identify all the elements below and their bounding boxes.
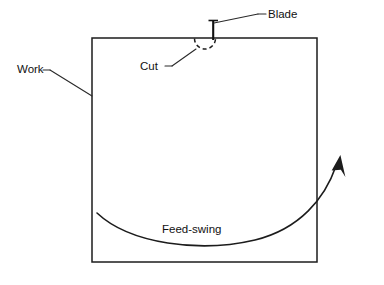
work-label: Work (17, 63, 44, 75)
feed-swing-label: Feed-swing (162, 223, 221, 235)
cutting-operation-diagram: Blade Cut Work Feed-swing (0, 0, 384, 285)
cut-leader-line (172, 49, 196, 66)
cut-label: Cut (140, 60, 159, 72)
cut-arc-icon (195, 39, 216, 50)
work-leader-line (50, 70, 92, 96)
diagram-canvas: Blade Cut Work Feed-swing (0, 0, 384, 285)
blade-leader-line (214, 14, 258, 23)
blade-label: Blade (268, 8, 297, 20)
